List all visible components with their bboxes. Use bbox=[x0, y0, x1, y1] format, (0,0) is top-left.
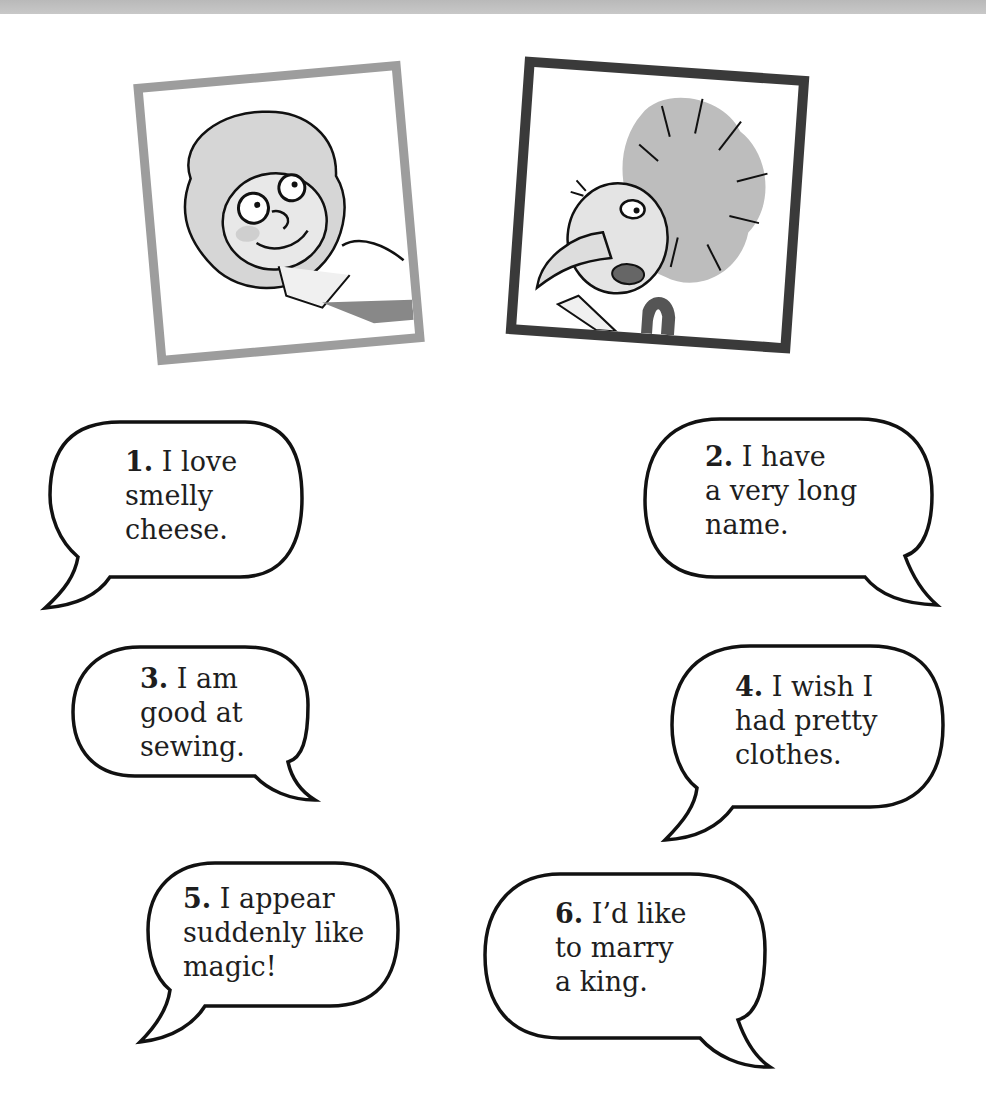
speech-bubble-6-outline-icon bbox=[0, 0, 986, 1113]
bubble-6-line-3: a king. bbox=[555, 965, 687, 999]
bubble-6-line-1: I’d like bbox=[592, 898, 687, 929]
bubble-6-number: 6. bbox=[555, 898, 583, 929]
bubble-6-line-2: to marry bbox=[555, 931, 687, 965]
